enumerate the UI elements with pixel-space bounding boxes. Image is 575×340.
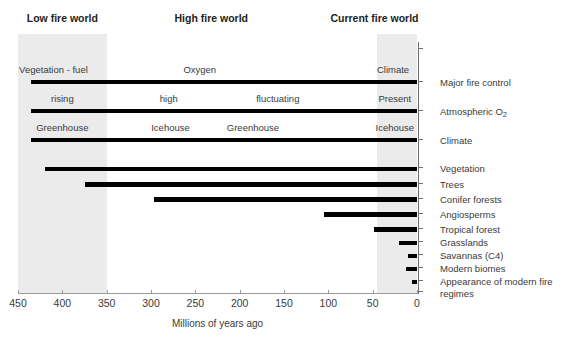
x-axis-tick-label-200: 200 [231, 297, 249, 309]
row-label-vegetation: Vegetation [440, 163, 485, 174]
era-heading-high-fire-world: High fire world [175, 12, 249, 24]
x-axis-tick-400 [62, 290, 63, 294]
band-caption-r1-1: Oxygen [183, 64, 216, 75]
row-label-modern-fire-regimes: Appearance of modern fire regimes [440, 276, 575, 299]
x-axis-tick-100 [328, 290, 329, 294]
x-axis-tick-label-350: 350 [98, 297, 116, 309]
x-axis-tick-label-50: 50 [367, 297, 379, 309]
row-label-savannas-c4: Savannas (C4) [440, 250, 503, 261]
vertical-axis-tick-2 [418, 139, 423, 140]
band-caption-r2-0: rising [51, 93, 74, 104]
row-label-angiosperms: Angiosperms [440, 209, 495, 220]
row-label-climate: Climate [440, 135, 472, 146]
band-caption-r2-3: Present [378, 93, 411, 104]
band-caption-r3-1: Icehouse [151, 122, 190, 133]
row-label-text: Atmospheric O [440, 106, 503, 117]
x-axis-tick-label-300: 300 [142, 297, 160, 309]
row-label-atmospheric-o2: Atmospheric O2 [440, 106, 507, 117]
x-axis-line [18, 293, 417, 294]
vertical-axis-tick-9 [418, 254, 423, 255]
event-bar-2 [154, 197, 417, 202]
x-axis-tick-label-100: 100 [320, 297, 338, 309]
x-axis-title: Millions of years ago [172, 318, 263, 329]
era-heading-low-fire-world: Low fire world [27, 12, 98, 24]
row-label-trees: Trees [440, 179, 464, 190]
vertical-axis-tick-8 [418, 241, 423, 242]
vertical-axis-tick-3 [418, 167, 423, 168]
band-caption-r3-2: Greenhouse [227, 122, 279, 133]
event-bar-3 [324, 212, 417, 217]
x-axis-tick-300 [151, 290, 152, 294]
x-axis-tick-label-400: 400 [54, 297, 72, 309]
event-bar-4 [374, 227, 417, 232]
row-label-grasslands: Grasslands [440, 237, 488, 248]
x-axis-tick-50 [373, 290, 374, 294]
vertical-axis-tick-0 [418, 81, 423, 82]
x-axis-tick-label-150: 150 [275, 297, 293, 309]
x-axis-tick-label-250: 250 [187, 297, 205, 309]
x-axis-tick-350 [107, 290, 108, 294]
x-axis-tick-200 [240, 290, 241, 294]
band-caption-r1-0: Vegetation - fuel [19, 64, 88, 75]
attribute-bar-1 [31, 109, 417, 114]
x-axis-tick-150 [284, 290, 285, 294]
era-heading-current-fire-world: Current fire world [330, 12, 418, 24]
subscript-two: 2 [503, 110, 507, 119]
vertical-axis-tick-5 [418, 198, 423, 199]
band-caption-r1-2: Climate [377, 64, 409, 75]
event-bar-1 [85, 182, 418, 187]
x-axis-tick-0 [417, 290, 418, 294]
x-axis-tick-label-450: 450 [9, 297, 27, 309]
attribute-bar-2 [31, 138, 417, 143]
vertical-axis-tick-11 [418, 280, 423, 281]
vertical-axis-tick-10 [418, 267, 423, 268]
vertical-axis-tick-1 [418, 110, 423, 111]
band-caption-r2-1: high [160, 93, 178, 104]
band-caption-r3-0: Greenhouse [36, 122, 88, 133]
vertical-axis-tick-7 [418, 228, 423, 229]
row-label-tropical-forest: Tropical forest [440, 224, 500, 235]
x-axis-tick-label-0: 0 [414, 297, 420, 309]
vertical-axis-tick-6 [418, 213, 423, 214]
event-bar-5 [399, 241, 417, 246]
vertical-axis-tick-top [418, 48, 423, 49]
band-caption-r2-2: fluctuating [256, 93, 299, 104]
vertical-axis-tick-4 [418, 183, 423, 184]
row-label-modern-biomes: Modern biomes [440, 263, 505, 274]
event-bar-6 [408, 254, 417, 259]
x-axis-tick-250 [195, 290, 196, 294]
fire-history-timeline-figure: Low fire worldHigh fire worldCurrent fir… [0, 0, 575, 340]
event-bar-8 [412, 280, 417, 285]
row-label-conifer-forests: Conifer forests [440, 194, 502, 205]
attribute-bar-0 [31, 80, 417, 85]
event-bar-0 [45, 167, 417, 172]
x-axis-tick-450 [18, 290, 19, 294]
vertical-axis-tick-bottom [418, 291, 423, 292]
band-caption-r3-3: Icehouse [376, 122, 415, 133]
event-bar-7 [406, 267, 417, 272]
row-label-major-fire-control: Major fire control [440, 77, 511, 88]
